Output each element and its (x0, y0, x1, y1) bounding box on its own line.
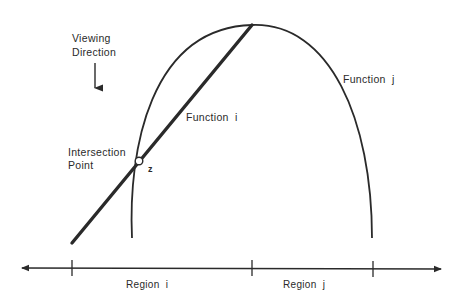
function-j-label: Function j (343, 73, 395, 85)
viewing-direction-label-line1: Viewing (72, 32, 111, 44)
region-j-label: Region j (283, 279, 325, 290)
intersection-label-line1: Intersection (68, 146, 126, 158)
point-z-label: z (148, 164, 153, 174)
function-i-label: Function i (186, 111, 238, 123)
viewing-direction-group: Viewing Direction (72, 32, 116, 88)
viewing-direction-label-line2: Direction (72, 46, 116, 58)
intersection-point-marker (135, 157, 143, 165)
intersection-label-group: Intersection Point (68, 146, 126, 171)
function-j-curve (132, 25, 372, 238)
region-i-label: Region i (126, 279, 168, 290)
axis-line (22, 268, 441, 269)
region-axis: Region i Region j (22, 260, 441, 290)
diagram-canvas: Viewing Direction z Intersection Point F… (0, 0, 464, 305)
intersection-label-line2: Point (68, 159, 93, 171)
